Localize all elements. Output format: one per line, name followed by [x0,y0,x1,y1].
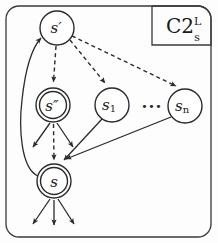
edge-s-one-to-s [64,119,102,160]
node-s-label: s [50,173,58,191]
corner-label-superscript: L [194,15,202,28]
corner-label-base: C2 [166,14,194,38]
node-s-prime[interactable]: s′ [40,11,74,45]
node-s-prime-label: s′ [50,19,62,37]
edge-s-out-left [33,199,50,224]
edge-s-double-out-left [33,123,50,147]
edge-s-prime-to-s-one [70,40,105,83]
node-s-double-prime[interactable]: s″ [36,88,70,122]
automaton-diagram: s′ s″ s1 ··· sn [0,0,218,243]
edge-s-prime-to-s-n [72,36,176,86]
corner-label: C2Ls [166,14,202,44]
node-s-one[interactable]: s1 [95,88,129,122]
node-s-n[interactable]: sn [168,89,202,123]
edge-s-double-to-s [54,124,55,160]
corner-label-subscript: s [194,31,200,44]
node-s[interactable]: s [37,164,71,198]
edge-s-double-out-right [57,123,73,147]
edge-s-n-to-s [66,117,171,159]
edge-s-out-right [58,199,74,224]
edge-s-prime-to-s-double [54,46,57,82]
svg-text:C2Ls: C2Ls [166,14,202,44]
node-s-double-prime-label: s″ [45,97,59,115]
ellipsis-label: ··· [142,96,163,116]
